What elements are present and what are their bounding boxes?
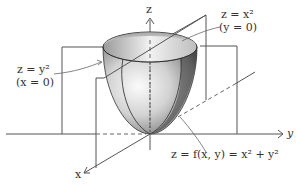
trace-xz-condition: (y = 0) — [219, 21, 257, 34]
y-axis-label: y — [286, 127, 294, 140]
x-axis-label: x — [75, 168, 82, 181]
trace-line — [235, 72, 255, 84]
trace-yz-condition: (x = 0) — [16, 76, 54, 89]
leader-trace-yz — [54, 62, 101, 74]
surface-equation: z = f(x, y) = x² + y² — [171, 148, 279, 161]
trace-yz-equation: z = y² — [17, 63, 50, 76]
z-axis-label: z — [146, 3, 152, 16]
paraboloid-diagram: z y x z = x² (y = 0) z = y² (x = 0) z = … — [0, 0, 298, 185]
x-axis — [84, 134, 150, 173]
plane-xz-front-outline — [96, 78, 104, 168]
trace-xz-equation: z = x² — [221, 8, 254, 21]
